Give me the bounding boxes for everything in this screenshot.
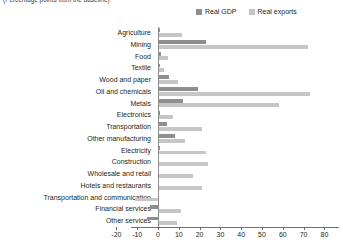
chart-legend: Real GDP Real exports: [196, 8, 297, 15]
chart-subtitle: (Percentage points from the baseline): [3, 0, 110, 4]
chart-row: Food: [0, 51, 343, 63]
chart-figure: (Percentage points from the baseline) Re…: [0, 0, 343, 252]
bar-real-exports: [158, 68, 164, 72]
chart-row: Agriculture: [0, 27, 343, 39]
bar-real-exports: [158, 174, 193, 178]
bar-real-gdp: [158, 134, 175, 138]
bar-real-exports: [158, 45, 308, 49]
bar-real-gdp: [150, 205, 158, 209]
bar-real-exports: [158, 115, 173, 119]
x-axis-tick-label: 80: [312, 231, 336, 239]
legend-swatch-real-gdp: [196, 9, 202, 15]
chart-row: Other services: [0, 215, 343, 227]
chart-row: Financial services: [0, 203, 343, 215]
chart-row: Metals: [0, 98, 343, 110]
x-axis-tick: [137, 227, 138, 230]
chart-row: Textile: [0, 62, 343, 74]
bar-real-exports: [158, 33, 182, 37]
bar-group: [0, 180, 343, 192]
chart-row: Transportation and communication: [0, 192, 343, 204]
bar-group: [0, 98, 343, 110]
chart-row: Electricity: [0, 145, 343, 157]
legend-swatch-real-exports: [249, 9, 255, 15]
bar-real-gdp: [158, 122, 167, 126]
bar-real-exports: [158, 103, 279, 107]
bar-real-gdp: [158, 87, 198, 91]
bar-group: [0, 86, 343, 98]
chart-row: Electronics: [0, 109, 343, 121]
bar-group: [0, 156, 343, 168]
bar-real-exports: [158, 209, 181, 213]
bar-real-exports: [158, 139, 185, 143]
chart-row: Mining: [0, 39, 343, 51]
x-axis-tick: [324, 227, 325, 230]
x-axis-tick: [304, 227, 305, 230]
bar-real-gdp: [158, 99, 183, 103]
bar-real-exports: [158, 162, 208, 166]
bar-real-exports: [158, 92, 310, 96]
chart-row: Oil and chemicals: [0, 86, 343, 98]
chart-row: Other manufacturing: [0, 133, 343, 145]
x-axis-tick: [241, 227, 242, 230]
chart-row: Wholesale and retail: [0, 168, 343, 180]
chart-row: Transportation: [0, 121, 343, 133]
x-axis-line: [131, 227, 339, 228]
bar-group: [0, 133, 343, 145]
bar-real-exports: [158, 186, 202, 190]
bar-real-gdp: [158, 40, 206, 44]
bar-real-gdp: [147, 217, 158, 221]
x-axis-tick: [200, 227, 201, 230]
bar-group: [0, 168, 343, 180]
bar-group: [0, 145, 343, 157]
bar-group: [0, 215, 343, 227]
x-axis-tick: [116, 227, 117, 230]
bar-real-exports: [135, 198, 158, 202]
bar-group: [0, 74, 343, 86]
legend-label-real-exports: Real exports: [258, 8, 297, 15]
legend-item-real-exports: Real exports: [249, 8, 297, 15]
bar-real-exports: [158, 127, 202, 131]
bar-real-exports: [158, 221, 177, 225]
bar-real-exports: [158, 56, 168, 60]
x-axis-tick: [220, 227, 221, 230]
x-axis-tick: [158, 227, 159, 230]
bar-group: [0, 62, 343, 74]
x-axis-tick: [179, 227, 180, 230]
bar-group: [0, 39, 343, 51]
bar-group: [0, 27, 343, 39]
x-axis-tick: [283, 227, 284, 230]
bar-real-gdp: [158, 75, 169, 79]
bar-group: [0, 192, 343, 204]
bar-group: [0, 51, 343, 63]
bar-group: [0, 121, 343, 133]
x-axis-tick: [262, 227, 263, 230]
zero-axis-line: [158, 27, 159, 227]
bar-real-exports: [158, 80, 178, 84]
legend-item-real-gdp: Real GDP: [196, 8, 237, 15]
legend-label-real-gdp: Real GDP: [205, 8, 237, 15]
bar-group: [0, 109, 343, 121]
chart-row: Wood and paper: [0, 74, 343, 86]
chart-row: Construction: [0, 156, 343, 168]
bar-real-exports: [158, 151, 206, 155]
chart-row: Hotels and restaurants: [0, 180, 343, 192]
bar-group: [0, 203, 343, 215]
plot-area: AgricultureMiningFoodTextileWood and pap…: [0, 27, 343, 227]
